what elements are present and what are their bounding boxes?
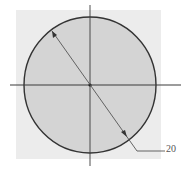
circle-diameter-diagram: [0, 0, 187, 173]
dimension-label: 20: [166, 143, 176, 154]
